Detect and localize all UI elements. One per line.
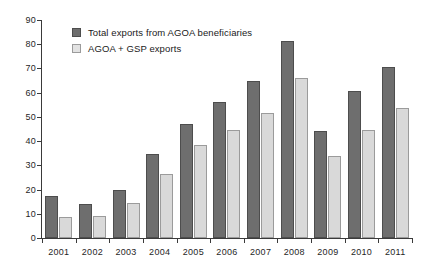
bar-pair [378,20,412,238]
x-tick-mark [311,238,312,243]
x-axis-label: 2006 [210,247,244,257]
legend-item-label: Total exports from AGOA beneficiaries [88,27,252,38]
y-tick-label: 70 [26,63,42,73]
bar-pair [311,20,345,238]
x-axis-label: 2004 [143,247,177,257]
y-tick-label: 60 [26,88,42,98]
bar[interactable] [93,216,106,238]
x-axis-label: 2011 [378,247,412,257]
x-tick-mark [378,238,379,243]
bar[interactable] [59,217,72,238]
x-tick-mark [412,238,413,243]
x-axis-label: 2008 [277,247,311,257]
bar-pair [345,20,379,238]
bar[interactable] [194,145,207,238]
bar-group [378,20,412,238]
bar[interactable] [382,67,395,238]
bar[interactable] [45,196,58,238]
bar[interactable] [314,131,327,238]
bar[interactable] [227,130,240,238]
x-tick-mark [244,238,245,243]
x-axis-label: 2001 [42,247,76,257]
bar-group [345,20,379,238]
bar[interactable] [160,174,173,238]
x-axis-line [41,238,412,239]
x-axis-label: 2009 [311,247,345,257]
bar-group [311,20,345,238]
x-tick-mark [277,238,278,243]
bar[interactable] [180,124,193,238]
bar-group [277,20,311,238]
x-tick-mark [76,238,77,243]
x-tick-mark [210,238,211,243]
x-axis-label: 2005 [177,247,211,257]
bar[interactable] [247,81,260,238]
x-tick-mark [42,238,43,243]
x-axis-label: 2002 [76,247,110,257]
x-tick-mark [143,238,144,243]
legend-swatch-icon [72,44,81,53]
y-tick-label: 80 [26,39,42,49]
bar[interactable] [362,130,375,238]
bar[interactable] [295,78,308,238]
bar-pair [42,20,76,238]
bar[interactable] [396,108,409,238]
y-tick-label: 40 [26,136,42,146]
bar[interactable] [348,91,361,238]
bar[interactable] [127,203,140,238]
bar[interactable] [79,204,92,238]
bar[interactable] [281,41,294,238]
bar[interactable] [213,102,226,238]
x-tick-mark [177,238,178,243]
legend-item[interactable]: Total exports from AGOA beneficiaries [72,26,252,39]
bar-chart: 9080706050403020100 20012002200320042005… [0,0,422,270]
x-axis-label: 2003 [109,247,143,257]
y-tick-label: 10 [26,209,42,219]
bar[interactable] [146,154,159,238]
bar-group [42,20,76,238]
x-axis-label: 2010 [345,247,379,257]
legend-item[interactable]: AGOA + GSP exports [72,42,252,55]
x-tick-mark [345,238,346,243]
legend-item-label: AGOA + GSP exports [88,43,181,54]
bar[interactable] [328,156,341,238]
legend-swatch-icon [72,28,81,37]
y-tick-label: 0 [31,233,42,243]
x-axis-label: 2007 [244,247,278,257]
bar[interactable] [113,190,126,238]
x-tick-mark [109,238,110,243]
bar-pair [277,20,311,238]
bar[interactable] [261,113,274,238]
y-tick-label: 20 [26,185,42,195]
y-tick-label: 30 [26,160,42,170]
y-tick-label: 90 [26,15,42,25]
chart-legend: Total exports from AGOA beneficiariesAGO… [72,26,252,58]
y-tick-label: 50 [26,112,42,122]
